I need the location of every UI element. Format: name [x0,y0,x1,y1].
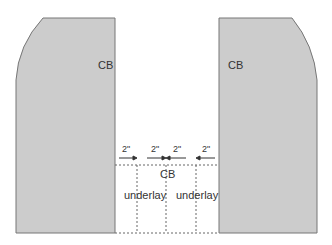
measurement-arrows [119,156,215,160]
underlay-label-left: underlay [124,190,166,201]
measurement-label-1: 2" [122,145,130,154]
center-label: CB [160,169,175,180]
underlay-label-right: underlay [176,190,218,201]
measurement-label-3: 2" [173,145,181,154]
left-panel-label: CB [98,60,113,71]
diagram-canvas [0,0,332,245]
measurement-label-2: 2" [151,145,159,154]
measurement-label-4: 2" [202,145,210,154]
right-panel-label: CB [228,60,243,71]
right-panel [219,18,317,233]
left-panel [16,18,115,233]
